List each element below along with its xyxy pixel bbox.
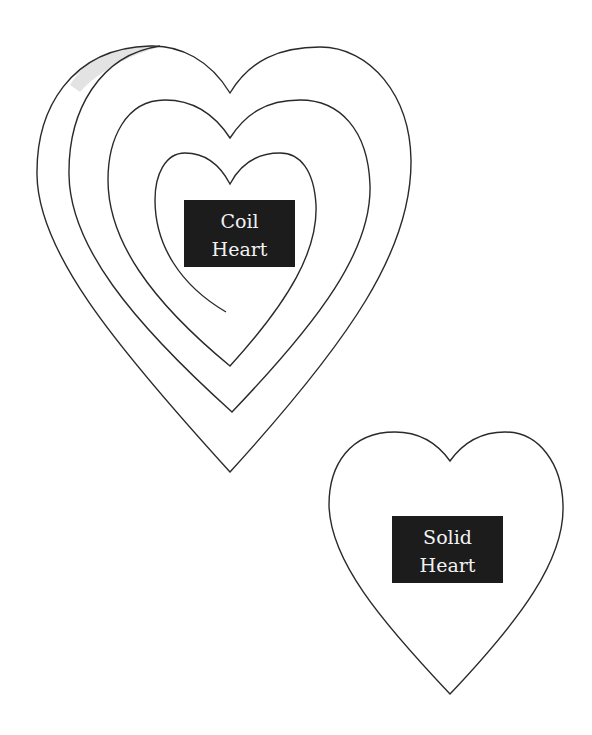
coil-heart-label-line2: Heart: [184, 235, 295, 263]
coil-heart-label: Coil Heart: [184, 200, 295, 267]
solid-heart-label-line1: Solid: [392, 523, 503, 551]
solid-heart-label: Solid Heart: [392, 516, 503, 583]
solid-heart-label-line2: Heart: [392, 551, 503, 579]
coil-heart-label-line1: Coil: [184, 207, 295, 235]
diagram-canvas: [0, 0, 592, 735]
